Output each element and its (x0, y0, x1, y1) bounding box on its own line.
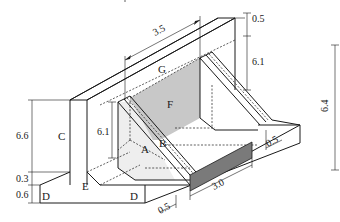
dim-6.4 (331, 45, 339, 170)
label-F: F (167, 98, 173, 110)
dim-label-overall-height: 6.4 (319, 100, 330, 113)
label-C: C (58, 130, 65, 142)
dim-label-left-wall: 6.6 (16, 130, 29, 141)
dim-left (28, 100, 70, 203)
dim-label-top-span: 3.5 (151, 22, 167, 38)
label-G: G (158, 63, 166, 75)
dim-label-wall-height: 6.1 (252, 56, 265, 67)
isometric-diagram: 3.5 0.5 6.1 6.4 6.6 0.3 0.6 6.1 3.0 (0, 0, 340, 222)
dim-label-base-step: 0.3 (16, 173, 29, 184)
label-D-right: D (130, 190, 138, 202)
label-D-left: D (42, 190, 50, 202)
dim-label-base-thickness: 0.6 (16, 189, 29, 200)
label-B: B (159, 137, 166, 149)
label-E: E (82, 180, 89, 192)
dim-label-inner-height: 6.1 (97, 126, 110, 137)
dim-wall-right (235, 13, 251, 90)
label-A: A (141, 143, 149, 155)
dim-label-base-front: 0.5 (156, 200, 172, 216)
dim-label-wall-top: 0.5 (252, 13, 265, 24)
